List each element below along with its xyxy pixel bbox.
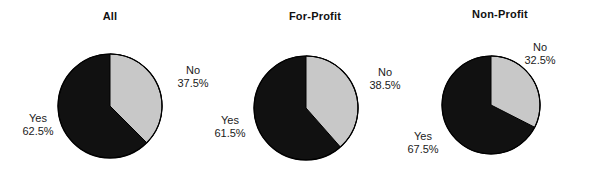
pie-label-yes-name-for-profit: Yes [214, 114, 245, 127]
pie-panel-non-profit: Non-Profit No 32.5% Yes 67.5% [390, 0, 592, 181]
pie-chart-all [56, 52, 164, 160]
pie-label-no-non-profit: No 32.5% [524, 41, 555, 67]
pie-panel-for-profit: For-Profit No 38.5% Yes 61.5% [200, 0, 390, 181]
pie-title-for-profit: For-Profit [289, 10, 341, 22]
pie-label-no-value-non-profit: 32.5% [524, 54, 555, 67]
pie-label-yes-name-non-profit: Yes [407, 130, 438, 143]
pie-label-yes-value-all: 62.5% [22, 125, 53, 138]
pie-title-all: All [103, 10, 118, 22]
pie-panel-all: All No 37.5% Yes 62.5% [0, 0, 200, 181]
pie-label-yes-all: Yes 62.5% [22, 112, 53, 138]
pie-label-yes-value-for-profit: 61.5% [214, 127, 245, 140]
pie-label-yes-value-non-profit: 67.5% [407, 143, 438, 156]
pie-chart-for-profit [252, 54, 360, 162]
pie-title-non-profit: Non-Profit [472, 8, 528, 20]
pie-label-no-name-non-profit: No [524, 41, 555, 54]
pie-label-yes-non-profit: Yes 67.5% [407, 130, 438, 156]
pie-label-yes-name-all: Yes [22, 112, 53, 125]
pie-chart-non-profit [440, 54, 542, 156]
pie-label-yes-for-profit: Yes 61.5% [214, 114, 245, 140]
